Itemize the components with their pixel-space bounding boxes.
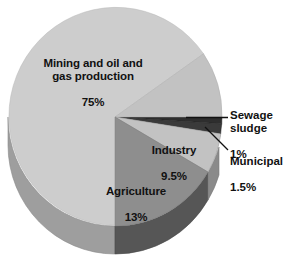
slice-label-agriculture-name: Agriculture	[92, 185, 180, 198]
slice-label-mining-name: Mining and oil and gas production	[26, 57, 160, 83]
pie-chart: Mining and oil and gas production 75% In…	[0, 0, 301, 257]
slice-label-sewage-sludge-name: Sewage sludge	[230, 109, 300, 135]
slice-label-municipal-value: 1.5%	[230, 181, 301, 194]
slice-label-industry-name: Industry	[136, 144, 212, 157]
slice-label-mining: Mining and oil and gas production 75%	[26, 44, 160, 121]
slice-label-municipal-name: Municipal	[230, 155, 301, 168]
slice-label-agriculture-value: 13%	[92, 211, 180, 224]
slice-label-agriculture: Agriculture 13%	[92, 172, 180, 236]
slice-label-mining-value: 75%	[26, 96, 160, 109]
slice-label-municipal: Municipal 1.5%	[230, 142, 301, 206]
